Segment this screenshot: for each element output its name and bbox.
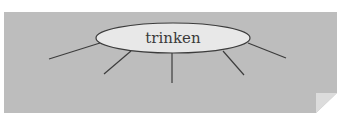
word-web-card: trinken <box>0 0 349 116</box>
word-web-diagram: trinken <box>0 0 349 116</box>
center-word: trinken <box>145 29 201 47</box>
page-curl <box>316 93 337 113</box>
